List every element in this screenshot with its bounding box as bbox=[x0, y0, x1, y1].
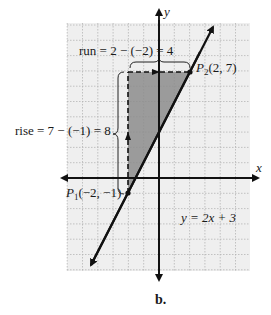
point-p2 bbox=[187, 69, 192, 74]
point-p1 bbox=[125, 190, 130, 195]
x-axis-label: x bbox=[255, 160, 262, 175]
figure-caption: b. bbox=[155, 292, 166, 307]
p1-label: P1(−2, −1) bbox=[65, 185, 121, 202]
run-label: run = 2 − (−2) = 4 bbox=[79, 43, 174, 58]
y-axis-label: y bbox=[162, 4, 170, 19]
p2-label: P2(2, 7) bbox=[195, 60, 237, 77]
rise-label: rise = 7 − (−1) = 8 bbox=[15, 123, 111, 138]
equation-label: y = 2x + 3 bbox=[179, 210, 237, 225]
slope-diagram: y x run = 2 − (−2) = 4 rise = 7 − (−1) =… bbox=[0, 0, 271, 315]
